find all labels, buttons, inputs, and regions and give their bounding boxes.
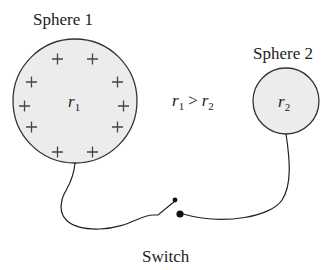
switch-contact-open xyxy=(173,198,178,203)
switch-contact xyxy=(176,210,183,217)
wire-sphere1 xyxy=(61,163,175,229)
sphere2-label: Sphere 2 xyxy=(253,44,313,63)
diagram-canvas: Sphere 1 r1 r1>r2 Sphere 2 r2 Switch xyxy=(0,0,335,270)
diagram: Sphere 1 r1 r1>r2 Sphere 2 r2 Switch xyxy=(0,0,335,270)
switch-label: Switch xyxy=(142,247,190,266)
radius-relation: r1>r2 xyxy=(172,91,214,112)
sphere1-label: Sphere 1 xyxy=(33,10,93,29)
wire-sphere2 xyxy=(183,134,289,219)
